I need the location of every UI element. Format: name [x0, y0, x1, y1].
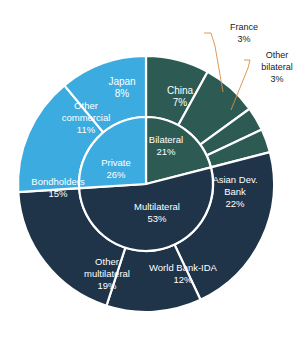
callout-other-bilateral-pct: 3% [270, 74, 283, 84]
inner-ring [79, 117, 213, 251]
label-other-multilateral-line1: Other [95, 256, 119, 267]
label-japan-pct: 8% [115, 88, 130, 99]
label-bondholders-pct: 15% [48, 188, 68, 199]
label-other-commercial-line2: commercial [62, 112, 111, 123]
callout-france-name: France [230, 22, 258, 32]
label-china-name: China [167, 85, 194, 96]
label-private-pct: 26% [106, 169, 126, 180]
label-other-multilateral-line2: multilateral [84, 268, 130, 279]
label-asian-dev-bank-line2: Bank [224, 186, 246, 197]
label-other-commercial-pct: 11% [77, 124, 96, 135]
label-bondholders-name: Bondholders [31, 176, 85, 187]
callout-other-bilateral-line1: Other [266, 50, 289, 60]
callout-france-pct: 3% [237, 34, 250, 44]
label-japan-name: Japan [108, 76, 135, 87]
donut-chart: Japan 8% China 7% Asian Dev. Bank 22% Wo… [0, 0, 305, 337]
label-multilateral-name: Multilateral [134, 201, 180, 212]
label-other-commercial-line1: Other [74, 100, 98, 111]
label-world-bank-ida-name: World Bank-IDA [149, 262, 218, 273]
label-world-bank-ida-pct: 12% [173, 274, 193, 285]
label-asian-dev-bank-line1: Asian Dev. [212, 174, 257, 185]
label-other-multilateral-pct: 19% [97, 280, 117, 291]
label-multilateral-pct: 53% [147, 213, 167, 224]
label-asian-dev-bank-pct: 22% [225, 198, 245, 209]
label-china-pct: 7% [173, 97, 188, 108]
label-private-name: Private [101, 157, 131, 168]
donut-chart-svg: Japan 8% China 7% Asian Dev. Bank 22% Wo… [0, 0, 305, 337]
callout-other-bilateral-line2: bilateral [261, 62, 293, 72]
label-bilateral-name: Bilateral [149, 134, 183, 145]
label-bilateral-pct: 21% [156, 146, 176, 157]
